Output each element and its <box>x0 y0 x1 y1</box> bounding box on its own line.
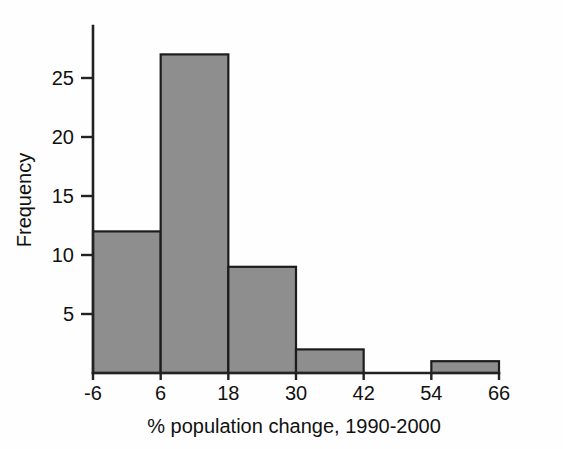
population-change-histogram: 510152025 -661830425466 % population cha… <box>0 0 563 449</box>
x-ticks-group: -661830425466 <box>84 373 510 404</box>
histogram-figure: 510152025 -661830425466 % population cha… <box>0 0 563 449</box>
x-tick-label: 54 <box>420 382 442 404</box>
x-tick-label: 66 <box>488 382 510 404</box>
x-tick-label: 6 <box>155 382 166 404</box>
bars-group <box>93 54 499 373</box>
y-tick-label: 10 <box>52 244 74 266</box>
x-tick-label: 30 <box>285 382 307 404</box>
histogram-bar <box>161 54 229 373</box>
histogram-bar <box>228 267 296 373</box>
y-ticks-group: 510152025 <box>52 67 93 325</box>
x-tick-label: 18 <box>217 382 239 404</box>
x-axis-title: % population change, 1990-2000 <box>147 415 441 437</box>
y-tick-label: 20 <box>52 126 74 148</box>
y-tick-label: 5 <box>63 303 74 325</box>
histogram-bar <box>93 231 161 373</box>
x-tick-label: 42 <box>353 382 375 404</box>
y-tick-label: 15 <box>52 185 74 207</box>
histogram-bar <box>431 361 499 373</box>
y-tick-label: 25 <box>52 67 74 89</box>
x-tick-label: -6 <box>84 382 102 404</box>
y-axis-title: Frequency <box>13 153 35 248</box>
histogram-bar <box>296 349 364 373</box>
